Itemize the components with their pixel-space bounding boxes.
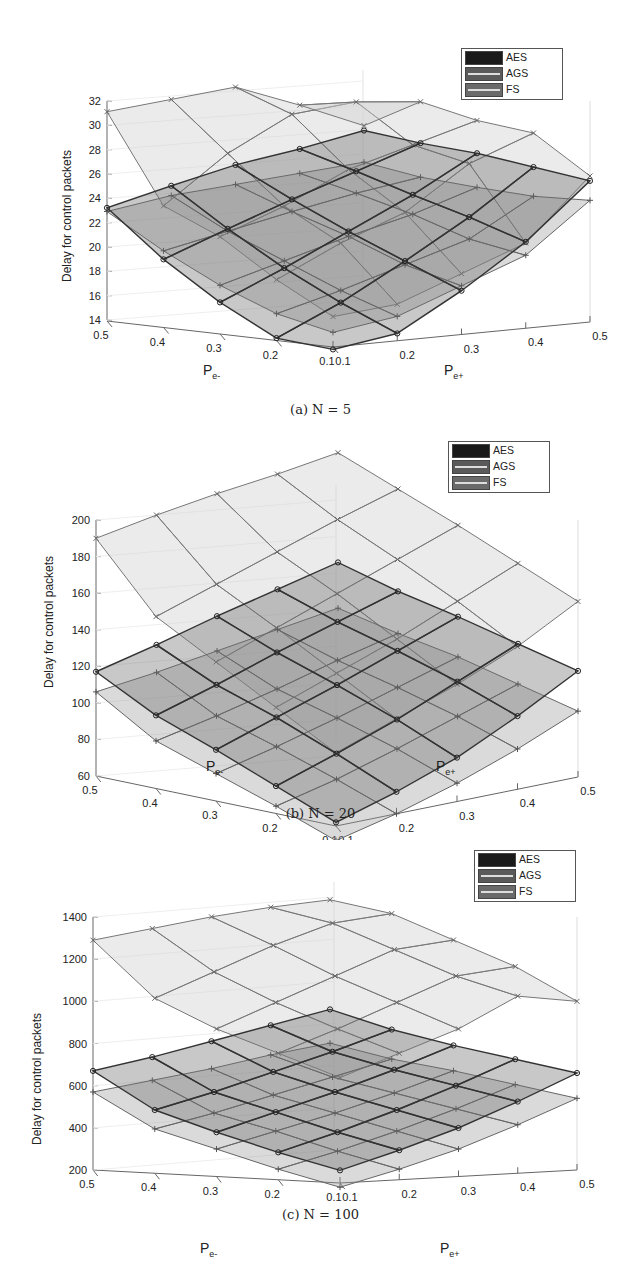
surface-plot-c: 1400120010008006004002000.50.40.30.20.10… bbox=[0, 840, 641, 1261]
legend-swatch-ags bbox=[452, 460, 490, 474]
y-axis-label: Pe+ bbox=[444, 362, 464, 381]
z-tick-label: 18 bbox=[89, 265, 101, 277]
caption-b: (b) N = 20 bbox=[0, 806, 641, 821]
x-tick-label: 0.1 bbox=[319, 355, 334, 367]
x-tick-label: 0.4 bbox=[141, 1181, 156, 1193]
x-tick-label: 0.4 bbox=[150, 336, 165, 348]
z-tick-label: 1200 bbox=[63, 953, 87, 965]
y-tick-label: 0.3 bbox=[461, 1185, 476, 1197]
legend-swatch-aes bbox=[465, 51, 503, 65]
z-tick-label: 30 bbox=[89, 119, 101, 131]
panel-a: 323028262422201816140.50.40.30.20.10.10.… bbox=[0, 0, 641, 420]
z-tick-label: 120 bbox=[72, 660, 90, 672]
y-tick-label: 0.5 bbox=[580, 785, 595, 797]
legend-swatch-fs bbox=[452, 476, 490, 490]
z-tick-label: 20 bbox=[89, 241, 101, 253]
x-tick-label: 0.1 bbox=[326, 1191, 341, 1203]
x-axis-label: Pe- bbox=[203, 362, 220, 381]
caption-a: (a) N = 5 bbox=[0, 402, 641, 417]
y-tick-label: 0.4 bbox=[520, 1181, 535, 1193]
z-axis-label: Delay for control packets bbox=[42, 556, 56, 688]
y-tick-label: 0.5 bbox=[579, 1178, 594, 1190]
y-axis-label: Pe+ bbox=[440, 1240, 460, 1259]
x-axis-label: Pe- bbox=[206, 758, 223, 777]
z-tick-label: 14 bbox=[89, 314, 101, 326]
legend: AES AGS FS bbox=[474, 850, 576, 902]
x-axis-label: Pe- bbox=[200, 1240, 217, 1259]
legend-swatch-aes bbox=[478, 853, 516, 867]
z-tick-label: 24 bbox=[89, 192, 101, 204]
panel-c: 1400120010008006004002000.50.40.30.20.10… bbox=[0, 840, 641, 1261]
z-tick-label: 200 bbox=[69, 1164, 87, 1176]
x-tick-label: 0.5 bbox=[93, 329, 108, 341]
z-tick-label: 32 bbox=[89, 95, 101, 107]
z-axis-label: Delay for control packets bbox=[60, 150, 74, 282]
z-tick-label: 1000 bbox=[63, 995, 87, 1007]
y-tick-label: 0.4 bbox=[528, 336, 543, 348]
z-tick-label: 60 bbox=[78, 770, 90, 782]
z-tick-label: 200 bbox=[72, 514, 90, 526]
z-tick-label: 400 bbox=[69, 1122, 87, 1134]
z-axis-label: Delay for control packets bbox=[30, 1013, 44, 1145]
z-tick-label: 600 bbox=[69, 1080, 87, 1092]
y-tick-label: 0.1 bbox=[342, 1191, 357, 1203]
x-tick-label: 0.2 bbox=[265, 1188, 280, 1200]
surface-aes bbox=[90, 1007, 579, 1173]
z-tick-label: 140 bbox=[72, 624, 90, 636]
legend-swatch-fs bbox=[478, 885, 516, 899]
z-tick-label: 80 bbox=[78, 733, 90, 745]
z-tick-label: 16 bbox=[89, 290, 101, 302]
z-tick-label: 22 bbox=[89, 217, 101, 229]
z-tick-label: 100 bbox=[72, 697, 90, 709]
x-tick-label: 0.3 bbox=[203, 1185, 218, 1197]
legend: AES AGS FS bbox=[461, 48, 563, 100]
y-tick-label: 0.2 bbox=[400, 349, 415, 361]
y-tick-label: 0.2 bbox=[399, 822, 414, 834]
legend-swatch-ags bbox=[465, 67, 503, 81]
y-tick-label: 0.2 bbox=[402, 1188, 417, 1200]
y-tick-label: 0.5 bbox=[592, 330, 607, 342]
caption-c: (c) N = 100 bbox=[0, 1207, 641, 1222]
z-tick-label: 160 bbox=[72, 587, 90, 599]
legend-swatch-aes bbox=[452, 444, 490, 458]
x-tick-label: 0.5 bbox=[82, 784, 97, 796]
z-tick-label: 1400 bbox=[63, 911, 87, 923]
y-axis-label: Pe+ bbox=[436, 758, 456, 777]
z-tick-label: 26 bbox=[89, 168, 101, 180]
legend: AES AGS FS bbox=[448, 441, 550, 493]
x-tick-label: 0.2 bbox=[262, 822, 277, 834]
panel-b: 20018016014012010080600.50.40.30.20.10.1… bbox=[0, 420, 641, 840]
z-tick-label: 180 bbox=[72, 551, 90, 563]
legend-swatch-ags bbox=[478, 869, 516, 883]
z-tick-label: 800 bbox=[69, 1038, 87, 1050]
x-tick-label: 0.5 bbox=[79, 1178, 94, 1190]
z-tick-label: 28 bbox=[89, 144, 101, 156]
x-tick-label: 0.3 bbox=[206, 342, 221, 354]
legend-swatch-fs bbox=[465, 83, 503, 97]
y-tick-label: 0.1 bbox=[335, 355, 350, 367]
x-tick-label: 0.2 bbox=[263, 349, 278, 361]
y-tick-label: 0.3 bbox=[464, 343, 479, 355]
